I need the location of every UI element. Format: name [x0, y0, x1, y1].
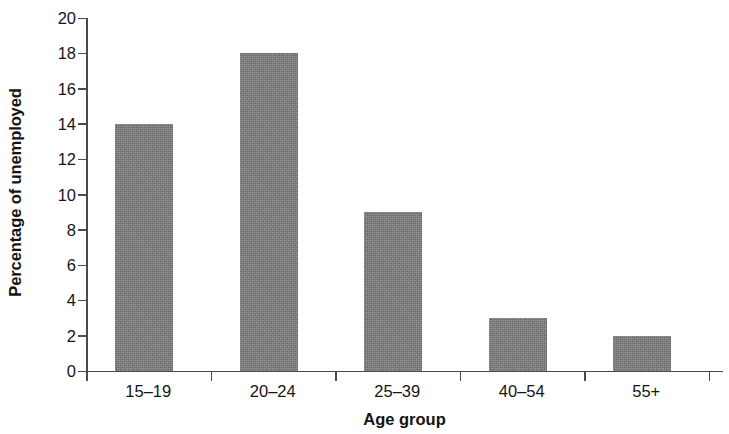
y-axis-tick-mark — [78, 265, 86, 267]
bar-25-39[interactable] — [364, 212, 422, 371]
y-axis-tick-mark — [78, 371, 86, 373]
y-axis-tick-label: 20 — [30, 10, 76, 27]
bar-20-24[interactable] — [240, 53, 298, 371]
y-axis-tick-label: 12 — [30, 151, 76, 168]
y-axis-tick-mark — [78, 194, 86, 196]
y-axis-tick-label: 4 — [30, 292, 76, 309]
x-axis-title: Age group — [86, 411, 723, 428]
y-axis-tick-mark — [78, 123, 86, 125]
y-axis-title: Percentage of unemployed — [6, 88, 25, 296]
y-axis-tick-label: 0 — [30, 363, 76, 380]
bar-55plus[interactable] — [613, 336, 671, 371]
y-axis-tick-mark — [78, 18, 86, 20]
x-axis-category-label-20-24: 20–24 — [211, 383, 336, 400]
y-axis-title-container: Percentage of unemployed — [0, 0, 30, 385]
x-axis-tick-mark — [335, 372, 337, 381]
y-axis-tick-label: 8 — [30, 222, 76, 239]
y-axis-tick-label: 6 — [30, 257, 76, 274]
bar-chart-figure: Percentage of unemployed 0 2 4 6 8 10 12… — [0, 0, 729, 434]
plot-area — [86, 18, 723, 371]
x-axis-tick-mark — [211, 372, 213, 381]
bar-15-19[interactable] — [115, 124, 173, 371]
x-axis-category-label-40-54: 40–54 — [460, 383, 585, 400]
bar-40-54[interactable] — [489, 318, 547, 371]
y-axis-tick-mark — [78, 300, 86, 302]
x-axis-tick-mark — [460, 372, 462, 381]
y-axis-tick-labels: 0 2 4 6 8 10 12 14 16 18 20 — [30, 0, 76, 434]
y-axis-tick-mark — [78, 335, 86, 337]
y-axis-tick-mark — [78, 53, 86, 55]
y-axis-tick-label: 14 — [30, 116, 76, 133]
x-axis-tick-mark — [86, 372, 88, 381]
x-axis-tick-mark — [584, 372, 586, 381]
y-axis-tick-mark — [78, 229, 86, 231]
y-axis-tick-label: 10 — [30, 186, 76, 203]
y-axis-tick-mark — [78, 88, 86, 90]
x-axis-category-label-55plus: 55+ — [584, 383, 709, 400]
y-axis-tick-mark — [78, 159, 86, 161]
x-axis-category-label-25-39: 25–39 — [335, 383, 460, 400]
y-axis-tick-label: 16 — [30, 80, 76, 97]
y-axis-tick-label: 18 — [30, 45, 76, 62]
x-axis-tick-mark — [709, 372, 711, 381]
x-axis-category-label-15-19: 15–19 — [86, 383, 211, 400]
y-axis-tick-label: 2 — [30, 327, 76, 344]
